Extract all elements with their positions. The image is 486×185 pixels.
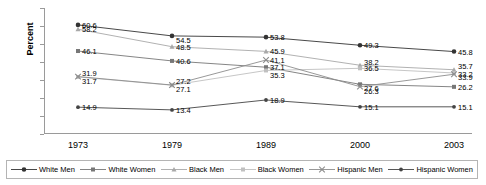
point-label-5-4: 15.1	[458, 102, 473, 111]
x-tick-1973: 1973	[68, 140, 88, 150]
legend-item-white-men[interactable]: White Men	[11, 165, 75, 174]
legend-item-black-women[interactable]: Black Women	[230, 165, 304, 174]
point-label-4-2: 41.1	[270, 56, 285, 65]
line-chart: Percent 010203040506070 1973197919892000…	[0, 0, 486, 185]
point-label-1-1: 40.6	[176, 56, 191, 65]
point-label-0-4: 45.8	[458, 47, 473, 56]
point-label-2-2: 45.9	[270, 47, 285, 56]
point-label-0-2: 53.8	[270, 33, 285, 42]
point-label-1-0: 46.1	[82, 47, 97, 56]
point-label-4-3: 26.3	[364, 86, 379, 95]
point-label-5-0: 14.9	[82, 103, 97, 112]
x-tick-1979: 1979	[162, 140, 182, 150]
legend-label: Hispanic Men	[337, 165, 382, 174]
point-label-4-4: 33.2	[458, 70, 473, 79]
point-label-3-2: 35.3	[270, 70, 285, 79]
point-label-2-0: 58.2	[82, 25, 97, 34]
legend-marker-small-circle-icon	[388, 165, 414, 174]
legend-label: Black Women	[258, 165, 304, 174]
point-label-3-3: 36.5	[364, 64, 379, 73]
legend-item-hispanic-men[interactable]: Hispanic Men	[309, 165, 382, 174]
legend-label: White Women	[108, 165, 155, 174]
legend-item-white-women[interactable]: White Women	[80, 165, 155, 174]
legend: White MenWhite WomenBlack MenBlack Women…	[6, 160, 478, 179]
legend-item-black-men[interactable]: Black Men	[161, 165, 224, 174]
legend-label: Hispanic Women	[416, 165, 473, 174]
x-tick-1989: 1989	[256, 140, 276, 150]
point-label-3-0: 31.7	[82, 76, 97, 85]
legend-item-hispanic-women[interactable]: Hispanic Women	[388, 165, 473, 174]
point-label-4-1: 27.2	[176, 77, 191, 86]
point-label-5-2: 18.9	[270, 95, 285, 104]
legend-marker-filled-square-icon	[80, 165, 106, 174]
legend-marker-triangle-icon	[161, 165, 187, 174]
series-line-4	[78, 60, 454, 87]
legend-marker-filled-circle-icon	[11, 165, 37, 174]
plot-area: 010203040506070 19731979198920002003 60.…	[44, 8, 472, 134]
point-label-3-1: 27.1	[176, 85, 191, 94]
point-label-2-1: 48.5	[176, 42, 191, 51]
series-layer	[44, 8, 472, 134]
point-label-5-1: 13.4	[176, 105, 191, 114]
legend-marker-light-square-icon	[230, 165, 256, 174]
y-tick-mark-0	[40, 134, 44, 135]
x-tick-2000: 2000	[350, 140, 370, 150]
point-label-4-0: 31.9	[82, 68, 97, 77]
point-label-1-4: 26.2	[458, 82, 473, 91]
point-label-0-3: 49.3	[364, 41, 379, 50]
legend-label: Black Men	[189, 165, 224, 174]
legend-marker-cross-icon	[309, 165, 335, 174]
point-label-5-3: 15.1	[364, 102, 379, 111]
y-axis-label: Percent	[25, 7, 35, 71]
x-tick-2003: 2003	[444, 140, 464, 150]
legend-label: White Men	[39, 165, 75, 174]
